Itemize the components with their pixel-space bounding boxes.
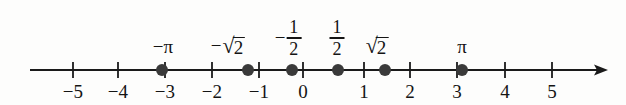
point-dot-negative-one-half[interactable] [286,64,298,76]
point-dot-negative-pi[interactable] [156,64,168,76]
point-dot-positive-pi[interactable] [456,64,468,76]
tick-label-pos3: 3 [452,82,462,101]
fraction-numerator: 1 [331,18,344,37]
point-label-negative-pi: −π [153,37,173,56]
tick-label-neg4: −4 [108,82,129,101]
tick-label-neg1: −1 [249,82,270,101]
tick-label-neg2: −2 [202,82,223,101]
point-label-positive-pi: π [457,37,467,56]
number-line-axis-svg [0,0,626,105]
tick-label-neg5: −5 [63,82,84,101]
point-label-negative-one-half: −12 [275,18,302,58]
point-dot-negative-sqrt-2[interactable] [242,64,254,76]
fraction-sign: − [275,28,286,47]
radicand: 2 [377,36,389,57]
fraction: 12 [286,18,301,58]
tick-label-neg3: −3 [155,82,176,101]
point-dot-positive-sqrt-2[interactable] [379,64,391,76]
tick-label-pos5: 5 [547,82,557,101]
number-line-figure: −5−4−3−2−1012345 −π−√2−1212√2π [0,0,626,105]
tick-label-pos2: 2 [405,82,415,101]
radicand: 2 [234,36,246,57]
tick-label-pos4: 4 [500,82,510,101]
point-label-negative-sqrt-2: −√2 [211,36,245,58]
tick-label-pos1: 1 [359,82,369,101]
radical-sign: − [211,36,222,55]
point-dot-positive-one-half[interactable] [332,64,344,76]
tick-label-pos0: 0 [298,82,308,101]
fraction-denominator: 2 [331,39,344,58]
fraction: 12 [330,18,345,58]
point-label-positive-one-half: 12 [330,18,345,58]
fraction-numerator: 1 [287,18,300,37]
point-label-positive-sqrt-2: √2 [366,36,389,58]
fraction-denominator: 2 [287,39,300,58]
